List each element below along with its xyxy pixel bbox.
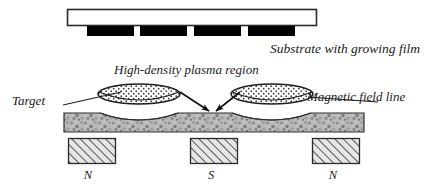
figure-canvas: Substrate with growing film High-density…: [0, 0, 437, 185]
magnet-array: [69, 139, 360, 164]
target-label: Target: [12, 93, 45, 108]
plasma-regions-group: [98, 84, 313, 104]
target-assembly: [64, 113, 364, 132]
plasma-region-right: [231, 84, 313, 104]
film-segment-1: [87, 26, 134, 36]
substrate-assembly: [68, 10, 317, 37]
magnet-pole-label-center: S: [208, 168, 215, 182]
substrate-label: Substrate with growing film: [270, 41, 420, 56]
film-segment-4: [248, 26, 295, 36]
magnet-south-center: [191, 139, 238, 164]
plasma-region-label: High-density plasma region: [113, 62, 259, 77]
magnetron-sputtering-figure: Substrate with growing film High-density…: [0, 0, 437, 185]
magnet-pole-label-right: N: [328, 168, 338, 182]
film-segment-2: [140, 26, 187, 36]
sputter-arrow-left: [180, 92, 209, 111]
magnetic-field-line-label: Magnetic field line: [306, 89, 405, 104]
substrate-bar: [68, 10, 317, 26]
sputter-arrow-right: [216, 92, 240, 111]
magnet-north-left: [69, 139, 116, 164]
film-segment-3: [194, 26, 241, 36]
magnet-pole-label-left: N: [83, 168, 93, 182]
magnet-north-right: [313, 139, 360, 164]
